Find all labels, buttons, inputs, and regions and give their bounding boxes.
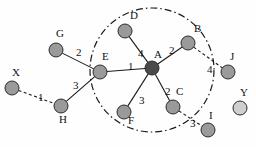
node-G[interactable] (49, 43, 63, 57)
node-label-J: J (230, 51, 234, 62)
edge-X-H (19, 90, 55, 103)
node-label-E: E (102, 51, 109, 62)
node-label-C: C (176, 86, 183, 97)
node-label-H: H (59, 114, 67, 125)
edge-weight-A-F: 3 (139, 95, 145, 106)
node-label-I: I (209, 110, 213, 121)
node-label-B: B (194, 23, 201, 34)
node-D[interactable] (118, 24, 132, 38)
node-label-G: G (56, 28, 64, 39)
edge-weight-C-I: 3 (190, 118, 196, 129)
node-label-A: A (154, 49, 162, 60)
node-label-F: F (128, 115, 134, 126)
edge-weight-D-A: 4 (138, 48, 144, 59)
node-label-X: X (12, 67, 20, 78)
node-I[interactable] (201, 123, 215, 137)
node-J[interactable] (221, 65, 235, 79)
node-label-D: D (130, 10, 138, 21)
edge-weight-G-E: 2 (76, 47, 82, 58)
edge-weight-E-A: 1 (128, 61, 134, 72)
node-Y[interactable] (233, 101, 247, 115)
edge-E-A (107, 69, 145, 72)
node-B[interactable] (181, 36, 195, 50)
node-E[interactable] (93, 65, 107, 79)
node-X[interactable] (5, 81, 19, 95)
edge-weight-B-J: 4 (207, 64, 213, 75)
node-label-Y: Y (240, 87, 248, 98)
edge-weight-A-B: 2 (169, 45, 175, 56)
node-H[interactable] (54, 99, 68, 113)
edge-weight-A-C: 2 (165, 86, 171, 97)
edge-weight-H-E: 3 (73, 80, 79, 91)
edge-H-E (66, 77, 94, 102)
edge-weight-X-H: 1 (38, 92, 44, 103)
edge-A-F (128, 74, 148, 106)
node-A[interactable] (145, 61, 159, 75)
node-C[interactable] (166, 100, 180, 114)
graph-diagram: ABCDEFGHXJYI2311424233 (0, 0, 256, 147)
